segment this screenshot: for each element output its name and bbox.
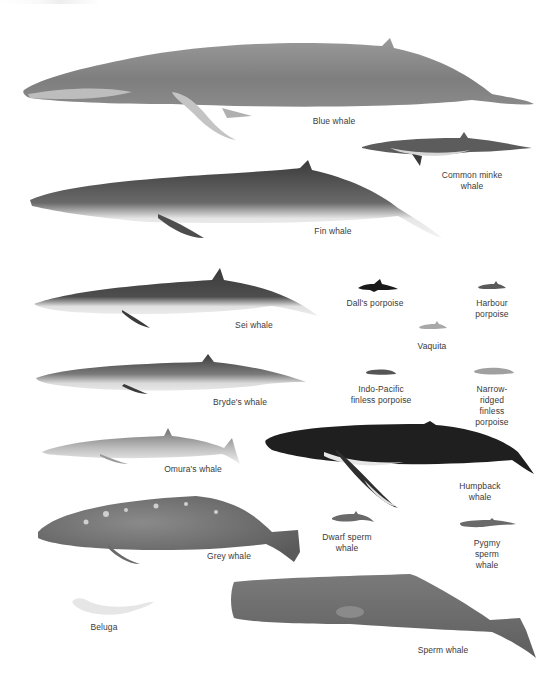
pygmy-sperm-whale-illustration (458, 517, 518, 531)
vaquita-illustration (417, 320, 449, 332)
beluga-illustration (70, 594, 156, 618)
narrow-ridged-finless-porpoise-illustration (472, 365, 516, 377)
vaquita-label: Vaquita (418, 341, 447, 352)
fin-whale-label: Fin whale (314, 226, 351, 237)
blue-whale-illustration (22, 34, 534, 142)
dalls-porpoise-label: Dall's porpoise (347, 298, 404, 309)
brydes-whale-label: Bryde's whale (213, 397, 267, 408)
sei-whale-label: Sei whale (235, 320, 273, 331)
humpback-whale-label: Humpback whale (452, 481, 508, 503)
dwarf-sperm-whale-label: Dwarf sperm whale (322, 532, 371, 554)
grey-whale-label: Grey whale (207, 551, 251, 562)
dwarf-sperm-whale-illustration (330, 510, 376, 526)
blue-whale-label: Blue whale (313, 116, 356, 127)
indo-pacific-finless-porpoise-illustration (364, 367, 398, 377)
sei-whale-illustration (32, 266, 322, 330)
omuras-whale-illustration (40, 426, 242, 466)
brydes-whale-illustration (34, 352, 308, 396)
harbour-porpoise-illustration (476, 280, 508, 292)
beluga-label: Beluga (90, 622, 117, 633)
dalls-porpoise-illustration (356, 278, 400, 294)
pygmy-sperm-whale-label: Pygmy sperm whale (463, 538, 512, 571)
common-minke-whale-label: Common minke whale (442, 170, 503, 192)
sperm-whale-illustration (230, 572, 536, 662)
top-edge-artifact (0, 0, 100, 4)
indo-pacific-finless-porpoise-label: Indo-Pacific finless porpoise (351, 384, 412, 406)
harbour-porpoise-label: Harbour porpoise (475, 298, 508, 320)
sperm-whale-label: Sperm whale (418, 645, 469, 656)
grey-whale-illustration (36, 492, 302, 566)
omuras-whale-label: Omura's whale (164, 464, 222, 475)
fin-whale-illustration (28, 158, 444, 244)
